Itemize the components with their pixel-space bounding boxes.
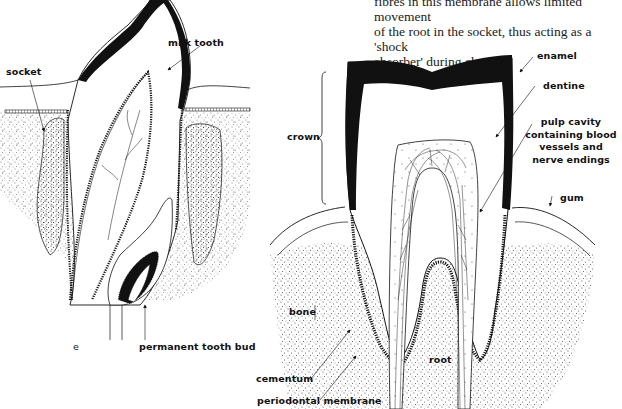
label-root: root	[429, 354, 452, 365]
label-gum: gum	[560, 192, 584, 203]
label-permanent-tooth-bud: permanent tooth bud	[139, 341, 256, 352]
label-cementum: cementum	[256, 373, 313, 384]
label-dentine: dentine	[543, 80, 585, 91]
label-enamel: enamel	[537, 50, 577, 61]
label-pulp-cavity-line-3: vessels and	[520, 141, 622, 154]
label-pulp-cavity-line-2: containing blood	[520, 129, 622, 142]
panel-letter: e	[73, 341, 79, 352]
label-milk-tooth: milk tooth	[168, 37, 224, 48]
label-crown: crown	[287, 131, 320, 142]
label-pulp-cavity: pulp cavity containing blood vessels and…	[520, 116, 622, 166]
milk-tooth-figure	[0, 0, 250, 340]
label-bone: bone	[289, 306, 316, 317]
label-pulp-cavity-line-4: nerve endings	[520, 154, 622, 167]
label-socket: socket	[6, 66, 41, 77]
tooth-diagrams	[0, 0, 622, 409]
label-periodontal-membrane: periodontal membrane	[257, 395, 382, 406]
label-pulp-cavity-line-1: pulp cavity	[520, 116, 622, 129]
